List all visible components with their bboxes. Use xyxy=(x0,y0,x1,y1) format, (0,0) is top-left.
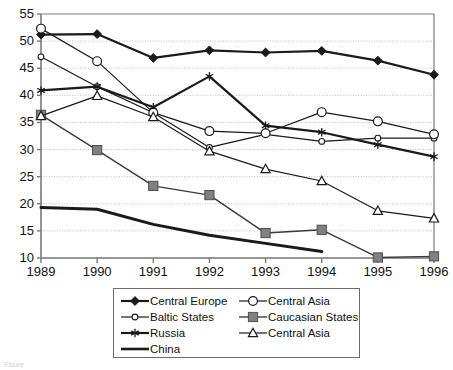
series-central-europe-0 xyxy=(37,30,439,79)
x-tick-label-1991: 1991 xyxy=(130,265,176,278)
legend-symbol-filled-diamond xyxy=(131,297,140,306)
datapoint-central-asia-1989-52.3 xyxy=(37,24,46,33)
legend-label: Caucasian States xyxy=(268,311,358,323)
caption-stub: Figure xyxy=(4,361,124,367)
x-tick-label-1992: 1992 xyxy=(186,265,232,278)
series-line-central-europe-0 xyxy=(41,34,434,75)
legend-marker-none-icon xyxy=(120,342,150,356)
series-central-asia-6 xyxy=(36,91,438,222)
x-tick-label-1993: 1993 xyxy=(243,265,289,278)
legend-symbol-filled-square xyxy=(248,312,257,321)
datapoint-central-europe-1994-48.2 xyxy=(317,46,326,55)
y-tick-label-25: 25 xyxy=(0,170,34,183)
datapoint-caucasian-states-1994-15.2 xyxy=(317,225,326,234)
datapoint-central-europe-1996-43.8 xyxy=(430,70,439,79)
legend-label: Central Asia xyxy=(268,295,330,307)
legend-item-central-asia-5[interactable]: Central Asia xyxy=(238,325,358,341)
datapoint-caucasian-states-1992-21.6 xyxy=(205,191,214,200)
legend-marker-small-open-circle-icon xyxy=(120,310,150,324)
legend-label: China xyxy=(150,343,180,355)
datapoint-baltic-states-1989-47.1 xyxy=(38,54,44,60)
datapoint-caucasian-states-1993-14.6 xyxy=(261,228,270,237)
legend-item-russia-4[interactable]: Russia xyxy=(120,325,238,341)
line-chart-svg xyxy=(0,0,448,285)
datapoint-central-asia-1995-18.7 xyxy=(373,206,382,214)
x-tick-label-1994: 1994 xyxy=(299,265,345,278)
datapoint-central-asia-1992-33.4 xyxy=(205,127,214,136)
legend-item-caucasian-states-3[interactable]: Caucasian States xyxy=(238,309,358,325)
x-tick-label-1995: 1995 xyxy=(355,265,401,278)
legend-marker-filled-square-icon xyxy=(238,310,268,324)
legend-item-central-asia-1[interactable]: Central Asia xyxy=(238,293,358,309)
y-tick-label-10: 10 xyxy=(0,251,34,264)
y-tick-label-40: 40 xyxy=(0,88,34,101)
y-tick-label-55: 55 xyxy=(0,7,34,20)
datapoint-central-europe-1990-51.3 xyxy=(93,30,102,39)
datapoint-central-asia-1994-36.9 xyxy=(317,108,326,117)
legend-label: Central Asia xyxy=(268,327,330,339)
datapoint-central-europe-1995-46.4 xyxy=(373,56,382,65)
plot-area: 55504540353025201510 1989199019911992199… xyxy=(0,0,448,285)
legend-item-central-europe-0[interactable]: Central Europe xyxy=(120,293,238,309)
datapoint-baltic-states-1995-32.1 xyxy=(375,135,381,141)
legend-symbol-small-open-circle xyxy=(132,314,138,320)
datapoint-central-europe-1991-46.9 xyxy=(149,54,158,63)
y-tick-label-15: 15 xyxy=(0,224,34,237)
legend-label: Baltic States xyxy=(150,311,214,323)
x-tick-label-1990: 1990 xyxy=(74,265,120,278)
datapoint-central-asia-1990-46.3 xyxy=(93,57,102,66)
datapoint-caucasian-states-1990-29.9 xyxy=(93,145,102,154)
datapoint-caucasian-states-1995-10.1 xyxy=(373,253,382,262)
y-tick-label-50: 50 xyxy=(0,34,34,47)
series-line-china-3 xyxy=(41,208,322,252)
legend-marker-asterisk-icon xyxy=(120,326,150,340)
datapoint-baltic-states-1994-31.5 xyxy=(319,139,325,145)
chart-legend: Central EuropeCentral AsiaBaltic StatesC… xyxy=(113,288,360,358)
legend-label: Central Europe xyxy=(150,295,227,307)
series-line-central-asia-6 xyxy=(41,96,434,219)
legend-item-china-6[interactable]: China xyxy=(120,341,238,357)
datapoint-caucasian-states-1991-23.3 xyxy=(149,181,158,190)
x-tick-label-1996: 1996 xyxy=(411,265,453,278)
y-tick-label-35: 35 xyxy=(0,115,34,128)
legend-items-grid: Central EuropeCentral AsiaBaltic StatesC… xyxy=(114,289,359,357)
legend-marker-open-triangle-icon xyxy=(238,326,268,340)
legend-item-baltic-states-2[interactable]: Baltic States xyxy=(120,309,238,325)
x-tick-label-1989: 1989 xyxy=(18,265,64,278)
series-china-3 xyxy=(41,208,322,252)
legend-label: Russia xyxy=(150,327,185,339)
y-tick-label-20: 20 xyxy=(0,197,34,210)
series-central-asia-4 xyxy=(37,24,439,139)
legend-symbol-open-circle xyxy=(249,297,258,306)
datapoint-central-europe-1992-48.3 xyxy=(205,46,214,55)
datapoint-caucasian-states-1996-10.3 xyxy=(429,252,438,261)
legend-marker-open-circle-icon xyxy=(238,294,268,308)
datapoint-central-asia-1993-33 xyxy=(261,129,270,138)
datapoint-central-asia-1996-32.8 xyxy=(430,130,439,139)
y-tick-label-30: 30 xyxy=(0,143,34,156)
legend-marker-filled-diamond-icon xyxy=(120,294,150,308)
y-tick-label-45: 45 xyxy=(0,61,34,74)
datapoint-central-asia-1995-35.2 xyxy=(373,117,382,126)
datapoint-central-europe-1993-47.9 xyxy=(261,48,270,57)
